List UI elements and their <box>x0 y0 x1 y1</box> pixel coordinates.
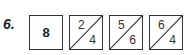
box-whole: 8 <box>29 15 63 50</box>
box-bottom-value: 4 <box>169 33 176 47</box>
diagonal-line-icon <box>110 16 142 49</box>
box-bottom-value: 6 <box>129 33 136 47</box>
diagonal-line-icon <box>150 16 182 49</box>
box-bottom-value: 4 <box>89 33 96 47</box>
box-split: 2 4 <box>69 15 103 50</box>
box-top-value: 2 <box>78 18 85 32</box>
box-top-value: 6 <box>158 18 165 32</box>
box-value: 8 <box>30 25 62 40</box>
box-split: 5 6 <box>109 15 143 50</box>
box-top-value: 5 <box>118 18 125 32</box>
question-number: 6. <box>3 16 15 32</box>
box-split: 6 4 <box>149 15 183 50</box>
diagonal-line-icon <box>70 16 102 49</box>
